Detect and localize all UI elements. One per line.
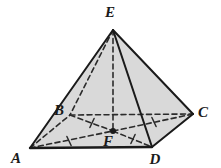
pyramid-diagram: EABCDF (0, 0, 221, 168)
vertex-label-a: A (10, 150, 21, 166)
vertex-label-e: E (104, 4, 115, 20)
geometry-figure-container: EABCDF (0, 0, 221, 168)
vertex-label-f: F (102, 133, 113, 149)
vertex-label-b: B (53, 102, 64, 118)
edge-bc (70, 114, 193, 115)
vertex-label-d: D (149, 151, 161, 167)
edge-ad (30, 147, 152, 148)
vertex-label-c: C (198, 104, 209, 120)
